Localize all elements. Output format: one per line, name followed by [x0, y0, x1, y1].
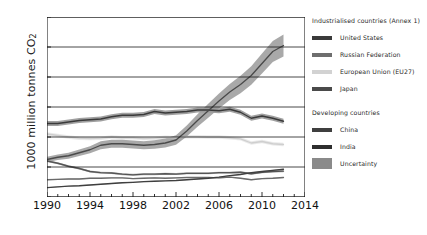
legend-swatch-icon: [312, 70, 332, 74]
y-axis-title-text: 1000 million tonnes CO: [25, 39, 38, 170]
uncertainty-bands: [47, 34, 284, 188]
legend-group-title-developing: Developing countries: [312, 109, 424, 116]
y-axis-title-subscript: 2: [29, 33, 38, 38]
data-lines: [47, 46, 284, 188]
legend-item-label: China: [340, 126, 358, 133]
legend-item-japan[interactable]: Japan: [312, 82, 424, 95]
x-tick-label: 2006: [197, 200, 241, 211]
x-tick-label: 2002: [154, 200, 198, 211]
legend-item-label: Uncertainty: [340, 160, 377, 167]
legend-item-label: European Union (EU27): [340, 68, 415, 75]
legend-items-industrialised: United StatesRussian FederationEuropean …: [312, 31, 424, 95]
legend-item-label: United States: [340, 34, 383, 41]
legend-swatch-icon: [312, 87, 332, 91]
x-tick-label: 1994: [68, 200, 112, 211]
legend-item-european-union-eu27[interactable]: European Union (EU27): [312, 65, 424, 78]
legend-item-india[interactable]: India: [312, 140, 424, 153]
x-tick-label: 2010: [240, 200, 284, 211]
x-tick-label: 1998: [111, 200, 155, 211]
data-line: [47, 177, 284, 180]
x-tick-label: 1990: [25, 200, 69, 211]
legend-item-label: India: [340, 143, 356, 150]
y-axis-title: 1000 million tonnes CO2: [25, 7, 38, 197]
legend-item-russian-federation[interactable]: Russian Federation: [312, 48, 424, 61]
uncertainty-swatch-icon: [312, 158, 332, 169]
chart-figure: 1000 million tonnes CO2 024681012 199019…: [0, 0, 427, 235]
chart-legend: Industrialised countries (Annex 1) Unite…: [312, 17, 424, 174]
legend-item-united-states[interactable]: United States: [312, 31, 424, 44]
legend-items-developing: ChinaIndiaUncertainty: [312, 123, 424, 170]
legend-item-china[interactable]: China: [312, 123, 424, 136]
legend-item-uncertainty[interactable]: Uncertainty: [312, 157, 424, 170]
x-tick-label: 2014: [283, 200, 327, 211]
legend-swatch-icon: [312, 145, 332, 149]
plot-area: [47, 17, 305, 197]
chart-canvas: [47, 17, 305, 197]
legend-item-label: Japan: [340, 85, 358, 92]
legend-swatch-icon: [312, 128, 332, 132]
legend-group-title-industrialised: Industrialised countries (Annex 1): [312, 17, 424, 24]
legend-swatch-icon: [312, 53, 332, 57]
legend-swatch-icon: [312, 36, 332, 40]
legend-item-label: Russian Federation: [340, 51, 401, 58]
